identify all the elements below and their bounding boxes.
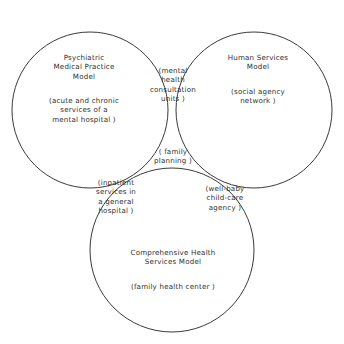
region-label-mental-health-consultation-units: (mental health consultation units ) [143, 57, 203, 112]
region-title-top-center: (mental health consultation units ) [143, 66, 203, 103]
region-subtitle-left: (acute and chronic services of a mental … [18, 96, 150, 124]
region-title-left: Psychiatric Medical Practice Model [18, 53, 150, 81]
region-label-comprehensive-health-services-model: Comprehensive Health Services Model (fam… [102, 239, 244, 300]
venn-diagram: Psychiatric Medical Practice Model (acut… [0, 0, 344, 344]
region-label-inpatient-services-general-hospital: (inpatient services in a general hospita… [80, 169, 152, 224]
region-subtitle-bottom: (family health center ) [102, 282, 244, 291]
region-subtitle-right: (social agency network ) [196, 87, 320, 105]
region-title-right-bottom: (well-baby child-care agency ) [190, 184, 260, 212]
region-title-right: Human Services Model [196, 53, 320, 71]
region-title-center: ( family planning ) [140, 147, 206, 165]
region-title-bottom: Comprehensive Health Services Model [102, 248, 244, 266]
region-label-human-services-model: Human Services Model (social agency netw… [196, 44, 320, 115]
region-title-left-bottom: (inpatient services in a general hospita… [80, 178, 152, 215]
region-label-well-baby-child-care-agency: (well-baby child-care agency ) [190, 175, 260, 221]
region-label-psychiatric-medical-practice-model: Psychiatric Medical Practice Model (acut… [18, 44, 150, 133]
